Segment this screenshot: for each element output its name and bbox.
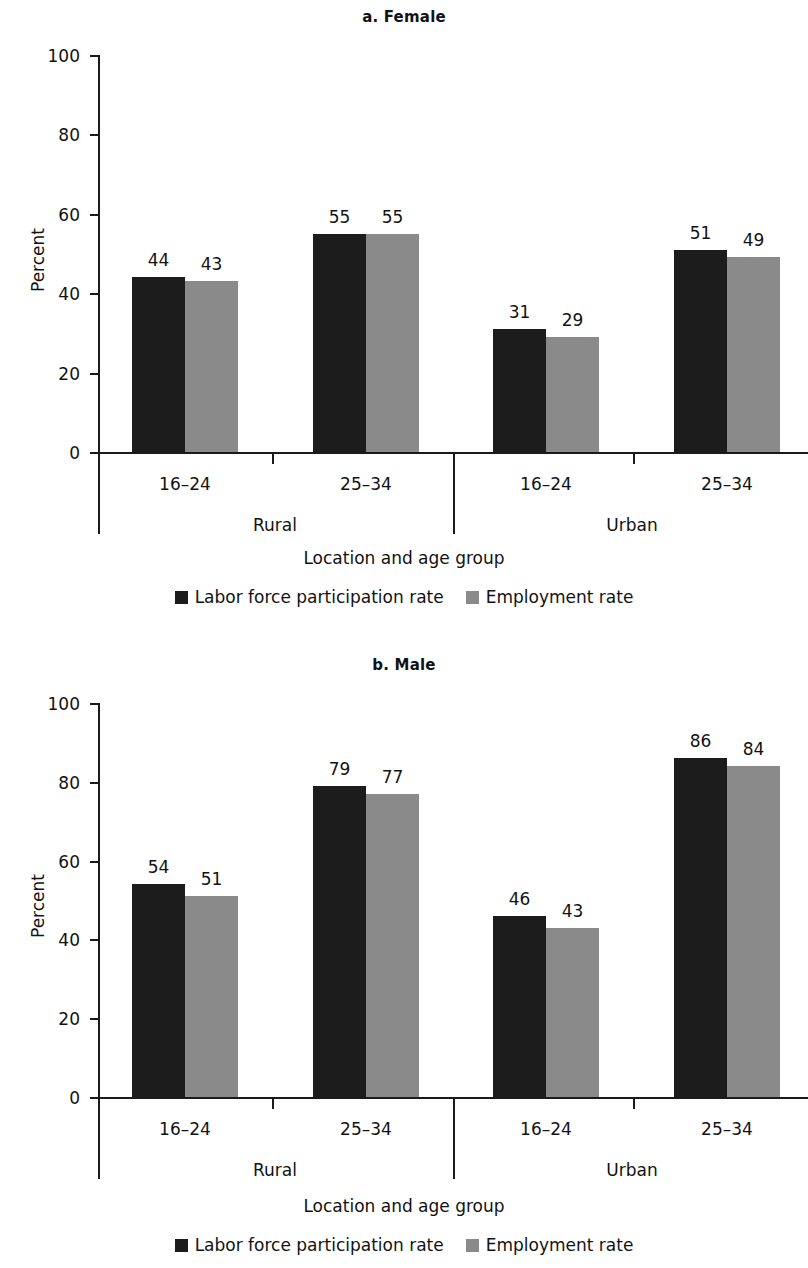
legend-item-labor-force-male: Labor force participation rate <box>175 1235 444 1255</box>
y-tick-mark <box>90 134 98 136</box>
bar-value-label: 43 <box>540 901 605 921</box>
x-age-group-label: 16–24 <box>159 1119 211 1139</box>
plot-area-female: Percent 100806040200 4443555531295149 16… <box>0 0 808 634</box>
legend-label-employment-male: Employment rate <box>486 1235 634 1255</box>
bar-value-label: 77 <box>360 767 425 787</box>
y-tick-label: 0 <box>0 1088 80 1108</box>
legend-male: Labor force participation rate Employmen… <box>0 1234 808 1255</box>
bar <box>674 250 727 452</box>
y-tick-label: 40 <box>0 930 80 950</box>
bar <box>366 794 419 1097</box>
legend-swatch-black-icon <box>175 1239 188 1252</box>
x-age-group-label: 16–24 <box>520 474 572 494</box>
chart-panel-male: b. Male Percent 100806040200 54517977464… <box>0 634 808 1268</box>
y-tick-mark <box>90 214 98 216</box>
y-tick-mark <box>90 861 98 863</box>
x-age-group-label: 16–24 <box>159 474 211 494</box>
y-tick-mark <box>90 373 98 375</box>
y-tick-mark <box>90 782 98 784</box>
bar <box>546 337 599 452</box>
x-location-label: Rural <box>253 1160 297 1180</box>
legend-female: Labor force participation rate Employmen… <box>0 586 808 607</box>
x-location-label: Rural <box>253 515 297 535</box>
x-location-label: Urban <box>606 1160 657 1180</box>
bar-value-label: 84 <box>721 739 786 759</box>
bar <box>313 786 366 1097</box>
y-tick-label: 0 <box>0 443 80 463</box>
chart-panel-female: a. Female Percent 100806040200 444355553… <box>0 0 808 634</box>
y-tick-label: 20 <box>0 364 80 384</box>
legend-swatch-gray-icon <box>466 591 479 604</box>
group-divider <box>453 1097 455 1179</box>
y-axis-title-male: Percent <box>28 874 48 938</box>
x-tick-mark <box>633 1097 635 1109</box>
x-tick-mark <box>272 1097 274 1109</box>
y-tick-mark <box>90 293 98 295</box>
legend-label-labor-force-female: Labor force participation rate <box>195 587 444 607</box>
bar-value-label: 55 <box>360 207 425 227</box>
y-tick-label: 60 <box>0 205 80 225</box>
x-age-group-label: 25–34 <box>340 474 392 494</box>
bar <box>185 281 238 452</box>
legend-item-employment-male: Employment rate <box>466 1235 634 1255</box>
x-axis-title-female: Location and age group <box>0 548 808 568</box>
bar <box>185 896 238 1097</box>
y-tick-mark <box>90 1018 98 1020</box>
group-divider <box>98 452 100 534</box>
y-tick-label: 80 <box>0 125 80 145</box>
y-tick-label: 60 <box>0 852 80 872</box>
y-axis-line-female <box>98 55 100 454</box>
x-age-group-label: 25–34 <box>701 1119 753 1139</box>
group-divider <box>453 452 455 534</box>
bar <box>493 329 546 452</box>
bar <box>313 234 366 452</box>
bar <box>546 928 599 1097</box>
bar <box>132 277 185 452</box>
bar-value-label: 49 <box>721 230 786 250</box>
y-tick-mark <box>90 1097 98 1099</box>
bar <box>493 916 546 1097</box>
legend-item-employment-female: Employment rate <box>466 587 634 607</box>
x-age-group-label: 16–24 <box>520 1119 572 1139</box>
legend-label-labor-force-male: Labor force participation rate <box>195 1235 444 1255</box>
y-tick-label: 40 <box>0 284 80 304</box>
y-tick-mark <box>90 55 98 57</box>
plot-area-male: Percent 100806040200 5451797746438684 16… <box>0 634 808 1268</box>
x-location-label: Urban <box>606 515 657 535</box>
legend-swatch-gray-icon <box>466 1239 479 1252</box>
y-tick-mark <box>90 452 98 454</box>
bar-value-label: 51 <box>179 869 244 889</box>
y-tick-label: 100 <box>0 694 80 714</box>
x-tick-mark <box>272 452 274 464</box>
bar <box>727 257 780 452</box>
bar <box>366 234 419 452</box>
bar-value-label: 29 <box>540 310 605 330</box>
group-divider <box>98 1097 100 1179</box>
x-tick-mark <box>633 452 635 464</box>
bar <box>132 884 185 1097</box>
legend-label-employment-female: Employment rate <box>486 587 634 607</box>
legend-swatch-black-icon <box>175 591 188 604</box>
bar <box>727 766 780 1097</box>
y-tick-label: 100 <box>0 46 80 66</box>
x-age-group-label: 25–34 <box>701 474 753 494</box>
y-tick-label: 80 <box>0 773 80 793</box>
x-axis-title-male: Location and age group <box>0 1196 808 1216</box>
y-axis-line-male <box>98 703 100 1099</box>
y-tick-label: 20 <box>0 1009 80 1029</box>
y-axis-title-female: Percent <box>28 228 48 292</box>
y-tick-mark <box>90 703 98 705</box>
bar-value-label: 43 <box>179 254 244 274</box>
bar <box>674 758 727 1097</box>
legend-item-labor-force-female: Labor force participation rate <box>175 587 444 607</box>
y-tick-mark <box>90 939 98 941</box>
x-age-group-label: 25–34 <box>340 1119 392 1139</box>
